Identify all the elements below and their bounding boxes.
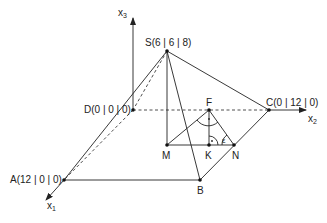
point-S (165, 49, 169, 53)
point-K (207, 143, 211, 147)
label-B: B (197, 185, 204, 196)
label-x2: x2 (308, 113, 317, 125)
right-angle-dot-F (208, 118, 210, 120)
point-C (267, 108, 271, 112)
point-N (232, 143, 236, 147)
label-x3: x3 (118, 7, 127, 19)
point-M (165, 143, 169, 147)
label-S: S(6 | 6 | 8) (145, 37, 191, 48)
label-M: M (162, 150, 170, 161)
point-D (131, 108, 135, 112)
label-A: A(12 | 0 | 0) (10, 174, 62, 185)
right-angle-arc-F (197, 120, 218, 126)
label-N: N (232, 150, 239, 161)
pyramid-diagram: ε S(6 | 6 | 8) D(0 | 0 | 0) C(0 | 12 | 0… (0, 0, 327, 223)
edge-SA (64, 51, 167, 180)
label-C: C(0 | 12 | 0) (266, 97, 318, 108)
angle-epsilon-label: ε (222, 136, 226, 145)
label-K: K (205, 150, 212, 161)
right-angle-dot-K (211, 140, 213, 142)
point-F (207, 108, 211, 112)
edge-DA (64, 110, 133, 180)
point-A (62, 178, 66, 182)
edge-SD (133, 51, 167, 110)
segment-MF (167, 110, 209, 145)
label-F: F (206, 97, 212, 108)
label-D: D(0 | 0 | 0) (84, 104, 131, 115)
right-angle-arc-K (209, 136, 218, 145)
label-x1: x1 (47, 200, 56, 212)
edge-SC (167, 51, 269, 110)
point-B (198, 178, 202, 182)
edge-SB (167, 51, 200, 180)
